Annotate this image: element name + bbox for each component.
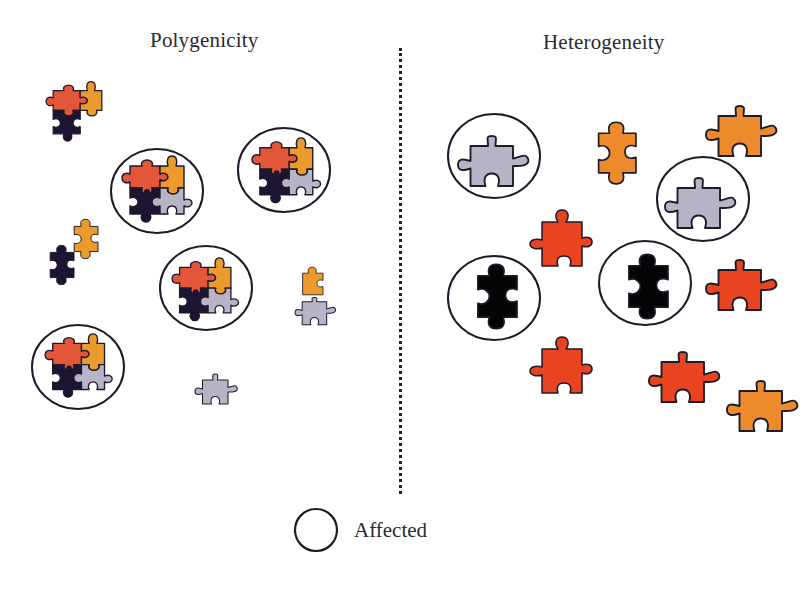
heterogeneity-piece-11: [727, 381, 797, 431]
polygenicity-group-5: [160, 246, 252, 330]
heterogeneity-piece-8: [706, 260, 776, 310]
heterogeneity-piece-3: [706, 106, 776, 156]
polygenicity-group-7: [32, 325, 124, 409]
polygenicity-group-3: [238, 128, 330, 212]
heterogeneity-piece-2: [599, 122, 636, 184]
polygenicity-group-2: [111, 149, 203, 233]
polygenicity-group-1: [46, 82, 102, 141]
polygenicity-group-6: [295, 267, 336, 325]
polygenicity-group-4: [50, 219, 98, 284]
diagram-canvas: [0, 0, 807, 593]
polygenicity-group-8: [195, 374, 237, 404]
heterogeneity-piece-9: [530, 337, 592, 393]
affected-legend-icon: [295, 509, 337, 551]
heterogeneity-piece-5: [530, 210, 592, 266]
heterogeneity-piece-7: [599, 241, 691, 325]
heterogeneity-piece-10: [649, 352, 719, 402]
legend-label: Affected: [354, 518, 427, 543]
heterogeneity-piece-1: [448, 114, 540, 198]
heterogeneity-piece-4: [657, 157, 749, 241]
heterogeneity-piece-6: [448, 256, 540, 340]
